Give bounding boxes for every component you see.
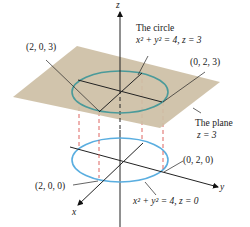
y-axis [70,147,218,187]
point-label-2-0-3: (2, 0, 3) [26,42,56,53]
plane-title: The plane [195,118,233,129]
point-label-0-2-0: (0, 2, 0) [183,155,213,166]
point-label-0-2-3: (0, 2, 3) [190,57,220,68]
lower-circle-equation: x² + y² = 4, z = 0 [133,196,199,207]
x-axis-label: x [72,207,76,218]
diagram-canvas [0,0,250,227]
upper-circle-title: The circle [136,23,174,34]
point-label-2-0-0: (2, 0, 0) [35,181,65,192]
plane-equation: z = 3 [197,130,217,141]
upper-circle-equation: x² + y² = 4, z = 3 [136,35,202,46]
y-axis-label: y [220,182,224,193]
z-axis-label: z [116,0,120,11]
plane-z3 [13,46,220,128]
